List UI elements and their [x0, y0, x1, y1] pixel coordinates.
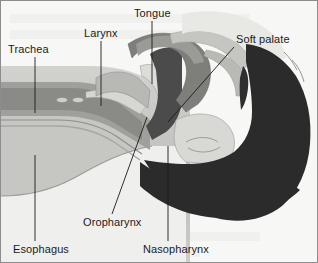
label-esophagus: Esophagus: [13, 243, 69, 255]
label-trachea: Trachea: [8, 43, 49, 55]
label-oropharynx: Oropharynx: [83, 216, 142, 228]
label-larynx: Larynx: [84, 27, 118, 39]
sagittal-airway-diagram: Trachea Larynx Tongue Soft palate Oropha…: [0, 0, 318, 263]
label-soft-palate: Soft palate: [236, 33, 290, 45]
label-tongue: Tongue: [134, 7, 171, 19]
anatomy-figure: Trachea Larynx Tongue Soft palate Oropha…: [0, 0, 318, 263]
label-nasopharynx: Nasopharynx: [143, 243, 209, 255]
